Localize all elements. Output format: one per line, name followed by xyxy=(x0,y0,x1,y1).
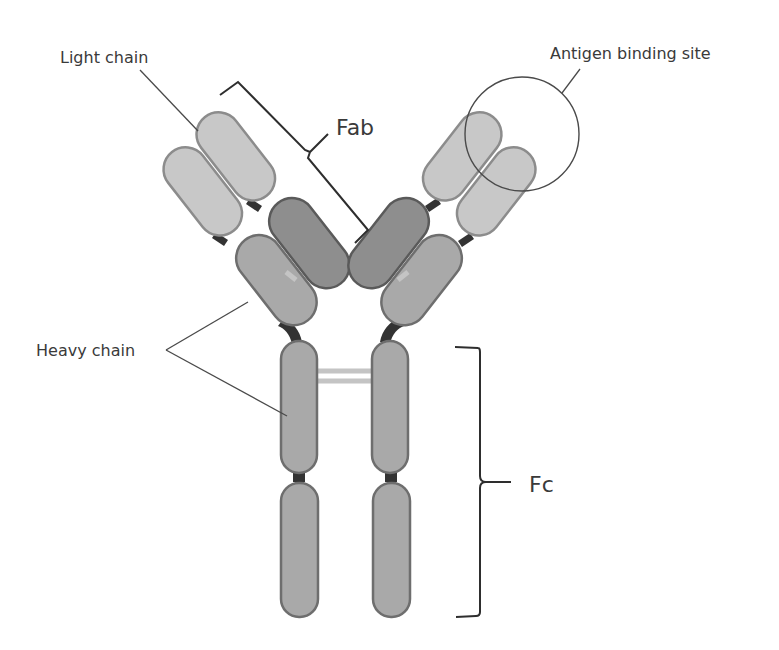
antibody-diagram: Antigen binding site Light chain Fab Hea… xyxy=(0,0,779,650)
light-chain-label: Light chain xyxy=(60,48,148,67)
right-heavy-chain-ch2 xyxy=(372,341,408,473)
left-arm xyxy=(155,103,359,344)
fab-label: Fab xyxy=(336,115,374,140)
antigen-binding-site-label: Antigen binding site xyxy=(550,44,711,63)
heavy-chain-label: Heavy chain xyxy=(36,341,135,360)
left-heavy-chain-ch3 xyxy=(281,483,318,617)
heavy-chain-leader-lower xyxy=(166,350,287,416)
fc-bracket xyxy=(455,347,511,617)
right-heavy-chain-ch3 xyxy=(373,483,410,617)
fc-label: Fc xyxy=(529,472,554,497)
light-chain-annotation: Light chain xyxy=(60,48,198,131)
heavy-chain-leader-upper xyxy=(166,302,248,350)
light-chain-leader xyxy=(140,70,198,131)
antigen-binding-site-leader xyxy=(562,69,580,93)
heavy-chain-annotation: Heavy chain xyxy=(36,302,287,416)
fc-stem xyxy=(281,341,410,617)
fc-annotation: Fc xyxy=(455,347,554,617)
left-heavy-chain-ch2 xyxy=(281,341,317,473)
